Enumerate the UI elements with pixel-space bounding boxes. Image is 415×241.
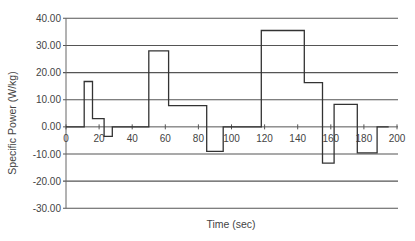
y-tick-label: -30.00: [33, 203, 62, 214]
x-tick-label: 120: [256, 133, 273, 144]
x-tick-label: 20: [94, 133, 106, 144]
x-tick-label: 40: [127, 133, 139, 144]
y-axis-tick-labels: 40.0030.0020.0010.000.00-10.00-20.00-30.…: [33, 13, 62, 214]
y-axis-label: Specific Power (W/kg): [6, 71, 18, 174]
horizontal-gridlines: [63, 18, 398, 208]
x-tick-label: 160: [322, 133, 339, 144]
y-tick-label: 30.00: [36, 40, 61, 51]
x-tick-label: 60: [160, 133, 172, 144]
step-chart: 40.0030.0020.0010.000.00-10.00-20.00-30.…: [0, 0, 415, 241]
x-axis-label: Time (sec): [206, 218, 255, 230]
y-tick-label: 10.00: [36, 94, 61, 105]
x-tick-label: 100: [223, 133, 240, 144]
x-tick-label: 200: [389, 133, 406, 144]
x-tick-label: 180: [356, 133, 373, 144]
y-tick-label: -10.00: [33, 149, 62, 160]
y-tick-label: 0.00: [42, 121, 62, 132]
x-tick-label: 140: [289, 133, 306, 144]
x-tick-label: 80: [193, 133, 205, 144]
y-tick-label: 20.00: [36, 67, 61, 78]
x-tick-label: 0: [63, 133, 69, 144]
y-tick-label: -20.00: [33, 176, 62, 187]
y-tick-label: 40.00: [36, 13, 61, 24]
